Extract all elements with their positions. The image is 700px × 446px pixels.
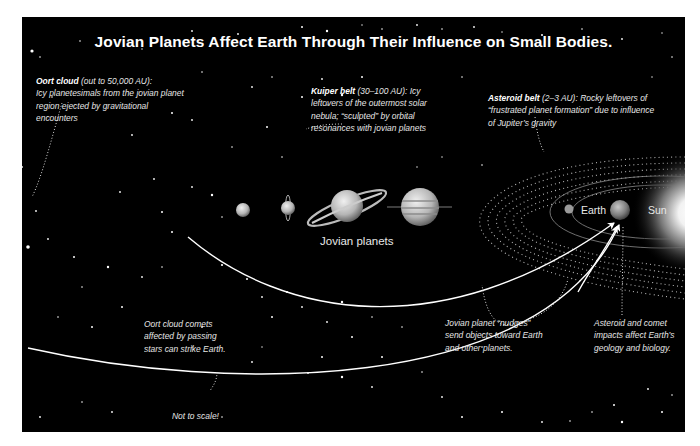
- asteroid-belt-heading: Asteroid belt: [488, 92, 540, 103]
- jovian-nudges-annotation: Jovian planet “nudges” send objects towa…: [445, 317, 546, 354]
- earth-label: Earth: [581, 204, 606, 216]
- kuiper-belt-range: (30–100 AU):: [357, 85, 407, 96]
- diagram-title: Jovian Planets Affect Earth Through Thei…: [22, 33, 685, 51]
- mars-icon: [565, 205, 574, 214]
- jovian-planets-label: Jovian planets: [320, 235, 394, 247]
- diagram-panel: Jovian Planets Affect Earth Through Thei…: [22, 17, 685, 432]
- asteroid-belt-range: (2–3 AU):: [542, 92, 578, 103]
- nudge-arrow: [578, 227, 617, 292]
- earth-icon: [610, 200, 630, 220]
- saturn-icon: [305, 184, 390, 232]
- oort-cloud-annotation: Oort cloud (out to 50,000 AU): Icy plane…: [36, 75, 186, 125]
- jovian-planets: [236, 184, 452, 232]
- jovian-arc-arrow: [188, 223, 614, 307]
- sun-label: Sun: [648, 204, 667, 216]
- oort-cloud-body: Icy planetesimals from the jovian planet…: [36, 87, 184, 123]
- uranus-icon: [281, 195, 295, 221]
- oort-comets-annotation: Oort cloud comets affected by passing st…: [144, 318, 228, 355]
- asteroid-belt-annotation: Asteroid belt (2–3 AU): Rocky leftovers …: [488, 92, 655, 129]
- neptune-icon: [236, 203, 250, 217]
- not-to-scale-note: Not to scale!: [172, 410, 219, 422]
- oort-cloud-range: (out to 50,000 AU):: [81, 75, 152, 86]
- kuiper-belt-annotation: Kuiper belt (30–100 AU): Icy leftovers o…: [311, 85, 452, 135]
- jupiter-icon: [387, 188, 452, 226]
- impacts-annotation: Asteroid and comet impacts affect Earth’…: [594, 317, 678, 354]
- oort-cloud-heading: Oort cloud: [36, 75, 79, 86]
- kuiper-belt-heading: Kuiper belt: [311, 85, 355, 96]
